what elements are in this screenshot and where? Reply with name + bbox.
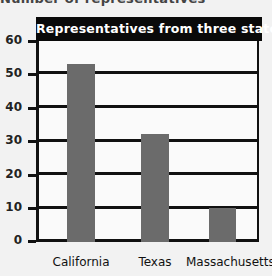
ytick-label-20: 20 (0, 167, 22, 181)
tick-10 (28, 207, 36, 210)
xtick-label-texas: Texas (130, 255, 180, 269)
tick-0 (28, 240, 36, 243)
tick-60 (28, 40, 36, 43)
tick-30 (28, 140, 36, 143)
xtick-label-california: California (50, 255, 112, 269)
chart-title: Representatives from three states (36, 17, 262, 41)
y-axis-label: Number of representatives (0, 0, 206, 6)
bar-massachusetts (209, 208, 236, 242)
ytick-label-60: 60 (0, 33, 22, 47)
ytick-label-30: 30 (0, 133, 22, 147)
ytick-label-40: 40 (0, 100, 22, 114)
bar-texas (141, 134, 169, 242)
tick-50 (28, 73, 36, 76)
ytick-label-0: 0 (0, 233, 22, 247)
xtick-label-massachusetts: Massachusetts (186, 255, 272, 269)
tick-20 (28, 174, 36, 177)
ytick-label-50: 50 (0, 66, 22, 80)
tick-40 (28, 107, 36, 110)
bar-california (67, 64, 95, 242)
ytick-label-10: 10 (0, 200, 22, 214)
